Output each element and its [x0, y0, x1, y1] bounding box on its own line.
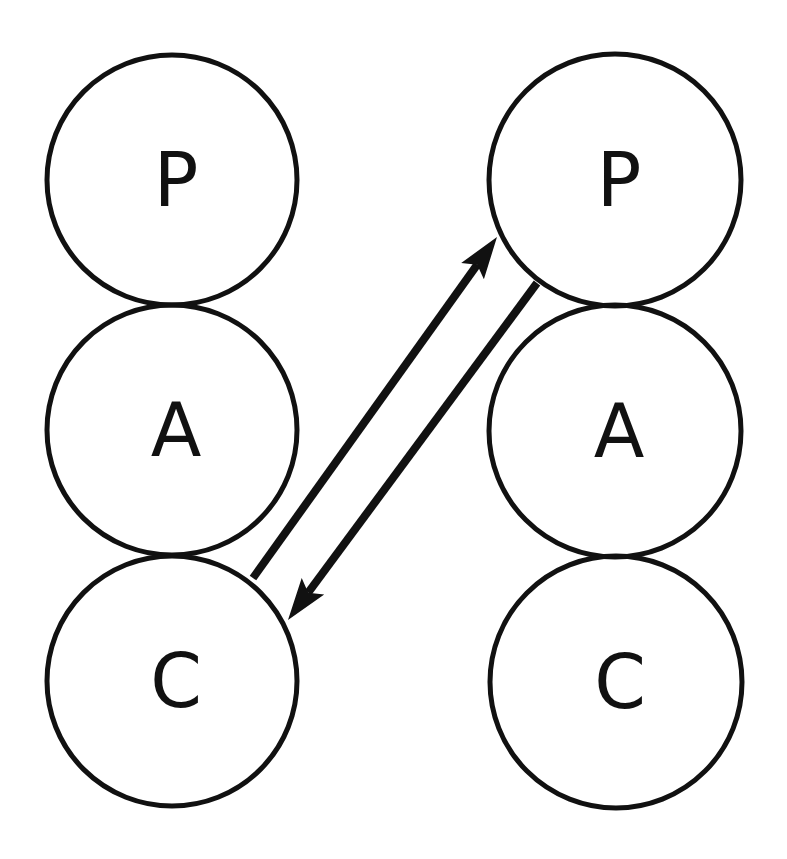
right-adult-label: A [594, 388, 645, 474]
right-child-state: C [490, 556, 742, 808]
right-parent-label: P [597, 137, 642, 223]
response-line [308, 283, 537, 593]
right-adult-state: A [489, 305, 741, 557]
right-person: P A C [489, 54, 742, 808]
left-parent-label: P [154, 137, 199, 223]
transactional-analysis-diagram: P A C P A C [0, 0, 787, 859]
right-parent-state: P [489, 54, 741, 306]
left-adult-state: A [47, 305, 297, 555]
transaction-stimulus [253, 237, 497, 578]
left-child-state: C [47, 556, 297, 806]
right-child-label: C [594, 639, 646, 725]
left-child-label: C [150, 638, 202, 724]
transaction-response [288, 283, 537, 620]
stimulus-line [253, 265, 477, 578]
left-parent-state: P [47, 55, 297, 305]
left-adult-label: A [151, 387, 202, 473]
left-person: P A C [47, 55, 297, 806]
